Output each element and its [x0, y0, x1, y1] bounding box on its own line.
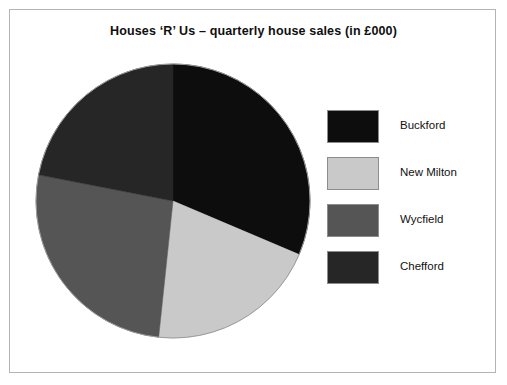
pie-slice-wycfield[interactable]: [36, 175, 173, 337]
legend-item[interactable]: Buckford: [327, 110, 487, 157]
legend-item[interactable]: Chefford: [327, 251, 487, 298]
legend-swatch-wycfield: [327, 204, 379, 237]
chart-title: Houses ‘R’ Us – quarterly house sales (i…: [0, 24, 507, 38]
legend-label: Wycfield: [400, 213, 443, 225]
legend-swatch-buckford: [327, 110, 379, 143]
chart-figure: Houses ‘R’ Us – quarterly house sales (i…: [0, 0, 507, 385]
pie-chart: [34, 62, 312, 340]
legend-label: Buckford: [400, 119, 445, 131]
pie-chart-svg: [34, 62, 312, 340]
legend-item[interactable]: New Milton: [327, 157, 487, 204]
chart-legend: BuckfordNew MiltonWycfieldChefford: [327, 110, 487, 298]
legend-label: New Milton: [400, 166, 457, 178]
legend-item[interactable]: Wycfield: [327, 204, 487, 251]
legend-swatch-chefford: [327, 251, 379, 284]
legend-swatch-new-milton: [327, 157, 379, 190]
legend-label: Chefford: [400, 260, 444, 272]
